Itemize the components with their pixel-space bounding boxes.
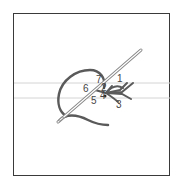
label-3: 3 — [116, 99, 122, 110]
label-4: 4 — [100, 90, 106, 101]
label-7: 7 — [96, 74, 102, 85]
label-6: 6 — [83, 83, 89, 94]
label-5: 5 — [91, 95, 97, 106]
stitch-diagram: 1 2 3 4 5 6 7 — [0, 0, 185, 188]
thread-tail — [64, 116, 108, 125]
label-1: 1 — [117, 73, 123, 84]
